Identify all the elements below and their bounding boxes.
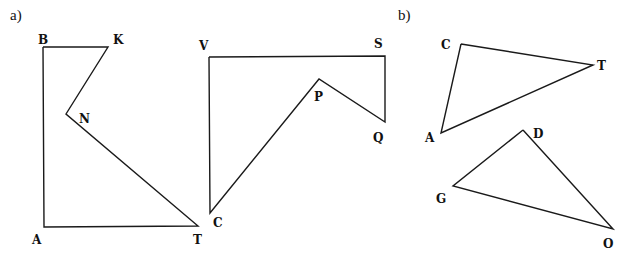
vertex-label-C: C <box>213 216 223 230</box>
triangle-CTA-outline <box>441 44 593 133</box>
vertex-label-T: T <box>193 233 202 247</box>
geometry-figure: a) b) B K N T A V S Q P C C T A D G O <box>0 0 630 264</box>
part-label-b: b) <box>398 7 411 24</box>
triangle-DGO-outline <box>453 130 613 229</box>
triangle-CTA: C T A <box>424 38 606 145</box>
vertex-label-G: G <box>436 192 446 206</box>
vertex-label-A: A <box>424 131 435 145</box>
part-label-a: a) <box>10 7 22 24</box>
polygon-VSQPC: V S Q P C <box>198 37 385 230</box>
vertex-label-K: K <box>113 33 124 47</box>
vertex-label-N: N <box>79 112 90 126</box>
vertex-label-V: V <box>198 39 209 53</box>
vertex-label-B: B <box>38 33 48 47</box>
vertex-label-C: C <box>441 38 451 52</box>
vertex-label-D: D <box>533 127 543 141</box>
polygon-VSQPC-outline <box>209 56 385 213</box>
polygon-BKNTA-outline <box>43 47 198 227</box>
triangle-DGO: D G O <box>436 127 613 251</box>
vertex-label-Q: Q <box>373 131 383 145</box>
vertex-label-A: A <box>31 233 42 247</box>
vertex-label-P: P <box>314 90 323 104</box>
vertex-label-O: O <box>603 237 613 251</box>
polygon-BKNTA: B K N T A <box>31 33 202 247</box>
vertex-label-T: T <box>597 59 606 73</box>
vertex-label-S: S <box>374 37 383 51</box>
